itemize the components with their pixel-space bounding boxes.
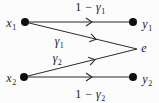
node-label-y1: y1 — [142, 18, 151, 30]
node-label-y1-var: y — [142, 17, 147, 31]
node-y1-dot — [129, 18, 137, 26]
node-label-y2-sub: 2 — [148, 79, 152, 88]
edge-label-x2-y2-var: γ — [96, 87, 101, 101]
erasure-channel-diagram: x1 x2 y1 y2 e 1 − γ1 γ1 γ2 1 − γ2 — [0, 0, 159, 103]
node-label-y1-sub: 1 — [148, 24, 152, 33]
edge-label-x1-e-sub: 1 — [60, 41, 64, 50]
node-label-y2-var: y — [142, 72, 147, 86]
edge-label-x1-y1-var: γ — [96, 0, 101, 14]
node-label-x2: x2 — [6, 72, 15, 84]
edge-label-x1-y1: 1 − γ1 — [75, 1, 105, 13]
node-y2-dot — [129, 73, 137, 81]
node-label-e-var: e — [141, 41, 146, 55]
edge-label-x1-e: γ1 — [55, 35, 64, 47]
node-label-x1-var: x — [6, 16, 11, 30]
node-x1-dot — [21, 18, 29, 26]
node-label-x1-sub: 1 — [12, 23, 16, 32]
edge-label-x1-y1-sub: 1 — [101, 7, 105, 16]
node-label-x2-sub: 2 — [12, 78, 16, 87]
edge-label-x2-e: γ2 — [53, 52, 62, 64]
node-label-x2-var: x — [6, 71, 11, 85]
edge-label-x1-y1-pre: 1 − — [75, 0, 96, 14]
node-x2-dot — [20, 73, 28, 81]
edge-label-x2-e-sub: 2 — [58, 58, 62, 67]
node-label-y2: y2 — [142, 73, 151, 85]
edge-label-x2-y2-pre: 1 − — [75, 87, 96, 101]
edge-label-x2-y2-sub: 2 — [101, 94, 105, 103]
edge-x2-e — [24, 49, 137, 77]
edge-x1-e — [25, 22, 137, 49]
node-label-e: e — [141, 42, 146, 54]
edge-label-x2-y2: 1 − γ2 — [75, 88, 105, 100]
node-label-x1: x1 — [6, 17, 15, 29]
